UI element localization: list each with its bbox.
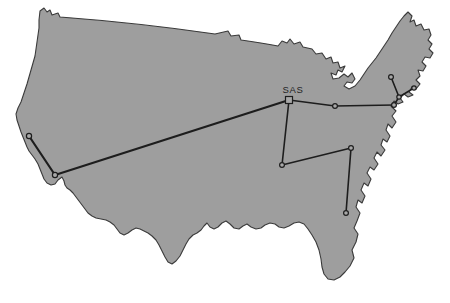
network-node[interactable] <box>349 146 354 151</box>
network-node[interactable] <box>344 211 349 216</box>
sas-hub-label: SAS <box>283 84 304 95</box>
us-network-map-figure: SAS <box>0 0 450 303</box>
network-node[interactable] <box>412 86 416 90</box>
network-node[interactable] <box>392 103 397 108</box>
sas-hub-node[interactable] <box>286 97 293 104</box>
us-landmass-shape <box>16 8 433 280</box>
map-canvas: SAS <box>0 0 450 303</box>
network-node[interactable] <box>52 172 57 177</box>
network-node[interactable] <box>333 104 338 109</box>
network-node[interactable] <box>397 95 401 99</box>
network-node[interactable] <box>389 75 394 80</box>
network-node[interactable] <box>26 133 31 138</box>
network-link <box>335 105 394 106</box>
network-node[interactable] <box>280 163 285 168</box>
